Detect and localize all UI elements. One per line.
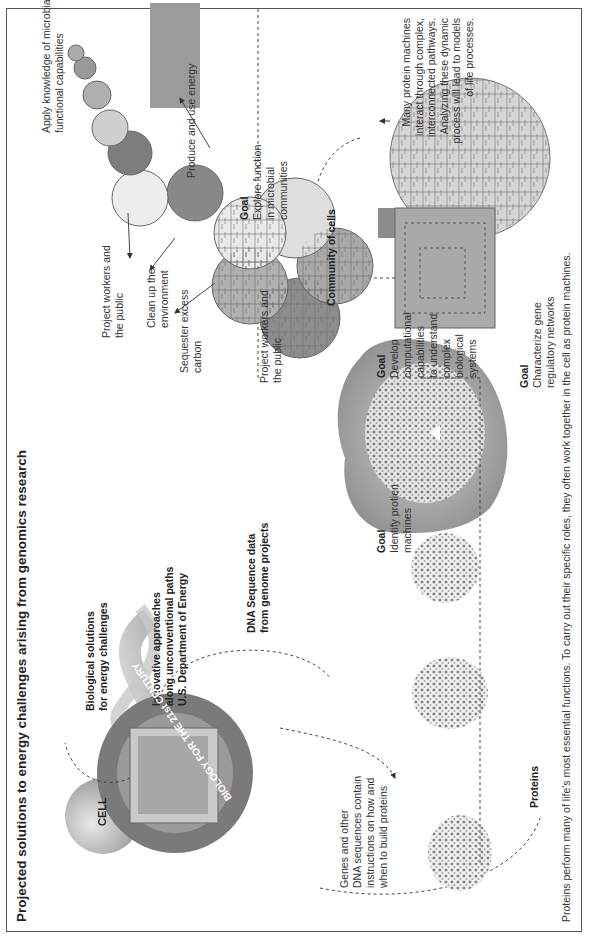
community-of-cells-label: Community of cells (325, 209, 338, 306)
network-note: Many protein machines interact through c… (400, 18, 475, 148)
diagram-graphics (0, 0, 589, 938)
proteins-label: Proteins (528, 766, 541, 808)
figure-caption: Proteins perform many of life's most ess… (560, 253, 572, 922)
diagram-canvas: Projected solutions to energy challenges… (0, 0, 589, 938)
outcome-produce-energy: Produce and use energy (185, 64, 198, 178)
cell-label: CELL (96, 797, 109, 826)
